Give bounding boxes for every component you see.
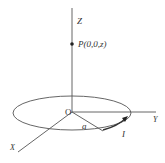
origin-label: O — [65, 107, 72, 117]
current-loop-diagram: Z P(0,0,z) O a I Y X — [0, 0, 165, 163]
z-axis-label: Z — [77, 16, 83, 26]
radius-label: a — [82, 121, 87, 131]
current-label: I — [121, 129, 126, 139]
point-p-marker — [70, 42, 74, 46]
point-p-label: P(0,0,z) — [77, 39, 107, 49]
y-axis-label: Y — [153, 115, 159, 124]
x-axis-label: X — [9, 143, 16, 152]
x-axis — [18, 112, 72, 152]
radius-line — [72, 112, 103, 131]
